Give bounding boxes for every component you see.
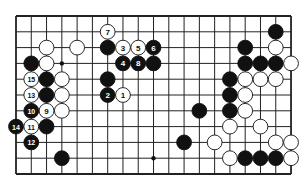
- white-stone: [54, 88, 69, 103]
- white-stone: [268, 135, 283, 150]
- black-stone: [238, 40, 253, 55]
- star-point: [60, 61, 64, 65]
- move-number-label: 13: [27, 92, 35, 99]
- black-stone: [192, 103, 207, 118]
- black-stone: [39, 88, 54, 103]
- black-stone: 10: [24, 103, 39, 118]
- white-stone: 13: [24, 88, 39, 103]
- move-number-label: 15: [27, 76, 35, 83]
- move-number-label: 11: [28, 124, 36, 131]
- black-stone: [146, 56, 161, 71]
- white-stone: [284, 135, 299, 150]
- black-stone: [100, 72, 115, 87]
- black-stone: 12: [24, 135, 39, 150]
- black-stone: [238, 56, 253, 71]
- white-stone: [70, 40, 85, 55]
- black-stone: [238, 151, 253, 166]
- white-stone: 3: [116, 40, 131, 55]
- white-stone: [39, 40, 54, 55]
- white-stone: [54, 103, 69, 118]
- black-stone: [268, 151, 283, 166]
- black-stone: [268, 56, 283, 71]
- black-stone: [253, 56, 268, 71]
- black-stone: [39, 119, 54, 134]
- white-stone: [268, 72, 283, 87]
- move-number-label: 3: [121, 44, 126, 53]
- white-stone: [238, 72, 253, 87]
- move-number-label: 8: [136, 59, 141, 68]
- go-board: 735648151321109141112: [0, 0, 306, 183]
- black-stone: 8: [131, 56, 146, 71]
- move-number-label: 1: [121, 91, 126, 100]
- white-stone: [238, 88, 253, 103]
- black-stone: [177, 135, 192, 150]
- black-stone: [268, 24, 283, 39]
- black-stone: 4: [116, 56, 131, 71]
- black-stone: [100, 40, 115, 55]
- black-stone: 6: [146, 40, 161, 55]
- black-stone: [253, 151, 268, 166]
- move-number-label: 14: [12, 124, 20, 131]
- white-stone: 1: [116, 88, 131, 103]
- white-stone: 15: [24, 72, 39, 87]
- black-stone: [24, 56, 39, 71]
- white-stone: [223, 119, 238, 134]
- move-number-label: 6: [151, 44, 156, 53]
- white-stone: 7: [100, 24, 115, 39]
- black-stone: [54, 151, 69, 166]
- white-stone: [39, 56, 54, 71]
- move-number-label: 10: [27, 108, 35, 115]
- white-stone: [253, 72, 268, 87]
- black-stone: 2: [100, 88, 115, 103]
- move-number-label: 9: [44, 107, 49, 116]
- black-stone: 14: [9, 119, 24, 134]
- white-stone: 9: [39, 103, 54, 118]
- white-stone: [284, 56, 299, 71]
- white-stone: [207, 135, 222, 150]
- white-stone: [268, 40, 283, 55]
- white-stone: [54, 72, 69, 87]
- move-number-label: 4: [121, 59, 126, 68]
- black-stone: [223, 72, 238, 87]
- white-stone: [253, 119, 268, 134]
- white-stone: [223, 151, 238, 166]
- move-number-label: 12: [27, 139, 35, 146]
- black-stone: [223, 88, 238, 103]
- move-number-label: 2: [105, 91, 110, 100]
- move-number-label: 5: [136, 44, 141, 53]
- white-stone: [238, 103, 253, 118]
- move-number-label: 7: [105, 28, 110, 37]
- white-stone: [284, 151, 299, 166]
- star-point: [151, 156, 155, 160]
- black-stone: [223, 103, 238, 118]
- white-stone: 5: [131, 40, 146, 55]
- white-stone: 11: [24, 119, 39, 134]
- black-stone: [39, 72, 54, 87]
